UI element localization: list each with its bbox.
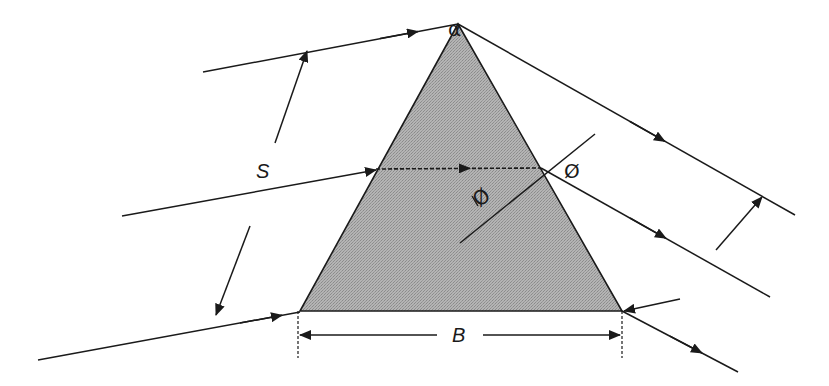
apex-angle-label: α <box>448 17 461 41</box>
middle-outgoing-arrowhead <box>630 218 666 238</box>
bottom-outgoing-arrowhead <box>670 336 702 353</box>
base-label: B <box>452 324 465 346</box>
top-outgoing-arrowhead <box>630 122 665 142</box>
prism-diagram: α S Ø Ø B <box>0 0 829 386</box>
top-incoming-arrowhead <box>380 32 418 39</box>
right-spacing-arrow <box>716 197 762 250</box>
incidence-angle-label: Ø <box>564 159 580 183</box>
base-right-incoming-ray <box>624 299 680 311</box>
spacing-lower-arrow <box>216 226 250 315</box>
spacing-label: S <box>256 160 270 182</box>
top-incoming-ray <box>203 24 458 72</box>
bottom-incoming-arrowhead <box>240 315 282 323</box>
spacing-upper-arrow <box>275 51 307 143</box>
middle-incoming-ray <box>122 170 376 216</box>
